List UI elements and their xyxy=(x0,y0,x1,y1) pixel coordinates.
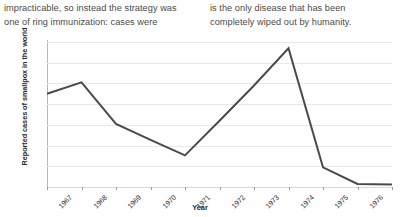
series-polyline xyxy=(47,48,392,184)
x-axis-tick-mark xyxy=(358,187,359,190)
x-axis-tick-mark xyxy=(151,187,152,190)
article-left-column: impracticable, so instead the strategy w… xyxy=(4,2,200,29)
x-axis-tick-mark xyxy=(323,187,324,190)
plot-area xyxy=(47,42,392,187)
x-axis-tick-mark xyxy=(82,187,83,190)
x-axis-tick-mark xyxy=(220,187,221,190)
x-axis-tick-mark xyxy=(289,187,290,190)
article-line: is the only disease that has been xyxy=(210,2,396,15)
x-axis-tick-mark xyxy=(116,187,117,190)
smallpox-line-chart: Reported cases of smallpox in the world … xyxy=(0,36,400,217)
article-line: completely wiped out by humanity. xyxy=(210,16,396,29)
x-axis-title: Year xyxy=(0,203,400,212)
article-body-text: impracticable, so instead the strategy w… xyxy=(0,0,400,29)
article-right-column: is the only disease that has been comple… xyxy=(200,2,396,29)
x-axis-tick-mark xyxy=(254,187,255,190)
data-line-series xyxy=(47,42,392,187)
x-axis-ticks: 1967196819691970197119721973197419751976… xyxy=(47,187,392,217)
y-axis-title: Reported cases of smallpox in the world xyxy=(20,36,29,166)
article-line: impracticable, so instead the strategy w… xyxy=(4,2,200,15)
article-line: one of ring immunization: cases were xyxy=(4,16,200,29)
x-axis-tick-mark xyxy=(392,187,393,190)
x-axis-tick-mark xyxy=(47,187,48,190)
x-axis-tick-mark xyxy=(185,187,186,190)
